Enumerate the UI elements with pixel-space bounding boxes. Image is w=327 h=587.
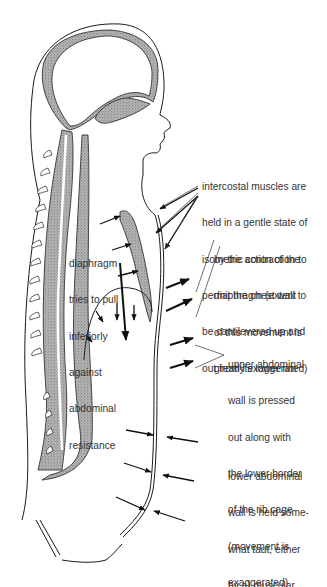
brainstem-region <box>95 98 150 123</box>
label-line: abdominal <box>69 403 118 415</box>
label-line: lower abdominal <box>228 471 309 483</box>
label-line: inferiorly <box>69 331 118 343</box>
label-line: upper abdominal <box>228 359 304 371</box>
label-line: out along with <box>228 432 304 444</box>
lower-abdominal-arrows <box>116 430 198 521</box>
sternum-chest-wall <box>120 211 152 322</box>
label-line: wall is held some- <box>228 507 309 519</box>
label-line: wall is pressed <box>228 395 304 407</box>
label-line: diaphragm (extent <box>214 290 307 302</box>
label-line: against <box>69 367 118 379</box>
label-line: by the action of the <box>214 254 307 266</box>
back-outline <box>22 200 40 520</box>
neck-front <box>142 175 155 215</box>
pelvic-floor <box>36 520 122 562</box>
label-line: by a) muscular <box>228 580 309 587</box>
diaphragm-label: diaphragm tries to pull inferiorly again… <box>69 234 118 464</box>
label-line: resistance <box>69 440 118 452</box>
outward-arrows <box>166 279 193 368</box>
label-line: what taut, either <box>228 544 309 556</box>
lower-abdominal-label: lower abdominal wall is held some- what … <box>228 447 309 587</box>
label-line: intercostal muscles are <box>202 181 307 193</box>
label-line: tries to pull <box>69 294 118 306</box>
label-line: diaphragm <box>69 258 118 270</box>
label-line: held in a gentle state of <box>202 217 307 229</box>
